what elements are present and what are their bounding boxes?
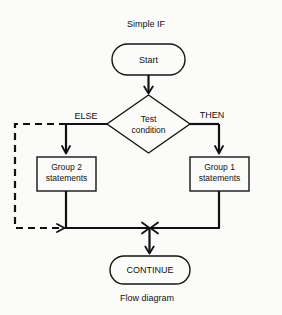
continue-node-label: CONTINUE bbox=[127, 265, 174, 275]
flow-diagram-figure: Simple IF Start Test condition ELSE THEN… bbox=[0, 0, 282, 315]
then-branch-label: THEN bbox=[200, 110, 225, 120]
group1-node-label-line1: Group 1 bbox=[204, 162, 235, 172]
diagram-title: Simple IF bbox=[127, 19, 166, 29]
group2-node-label-line1: Group 2 bbox=[51, 162, 82, 172]
decision-node-label-line1: Test bbox=[141, 114, 157, 124]
diagram-caption: Flow diagram bbox=[120, 293, 174, 303]
group2-node-label-line2: statements bbox=[46, 173, 88, 183]
decision-node-label-line2: condition bbox=[131, 125, 165, 135]
else-branch-label: ELSE bbox=[74, 111, 97, 121]
flowchart-canvas: Simple IF Start Test condition ELSE THEN… bbox=[0, 0, 282, 315]
decision-node-shape bbox=[107, 95, 190, 153]
group1-node-label-line2: statements bbox=[199, 173, 241, 183]
start-node-label: Start bbox=[139, 55, 159, 65]
